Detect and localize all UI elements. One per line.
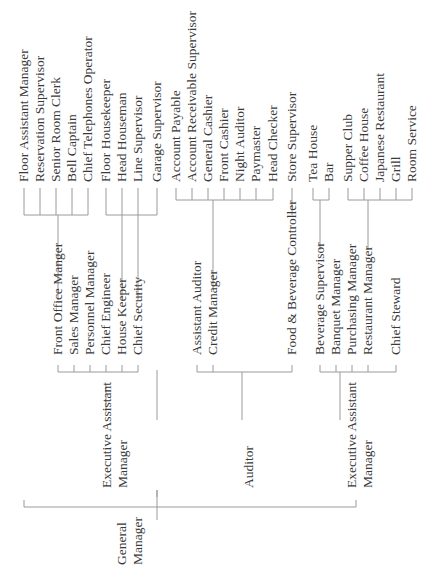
l3-head-checker: Head Checker [266,105,280,182]
l2-chief-steward: Chief Steward [389,277,403,355]
exec-asst-manager-left-line1: Executive Assistant [100,382,114,488]
l3-account-payable: Account Payable [169,90,183,182]
exec-asst-manager-right-line1: Executive Assistant [345,382,359,488]
l2-front-office-manger: Front Office Manger [51,243,65,355]
l2-restaurant-manager: Restaurant Manager [361,246,375,355]
l3-chief-telephones-operator: Chief Telephones Operator [81,36,95,182]
l3-floor-assistant-manager: Floor Assistant Manager [17,49,31,182]
l3-account-receivable-supervisor: Account Receivable Supervisor [185,11,199,182]
exec-asst-manager-right-line2: Manager [361,440,375,488]
org-chart: General Manager Executive Assistant Mana… [0,0,434,569]
l3-floor-housekeeper: Floor Housekeeper [99,79,113,182]
l3-bell-captain: Bell Captain [65,114,79,182]
l2-house-keeper: House Keeper [115,278,129,355]
l3-store-supervisor: Store Supervisor [285,92,299,182]
l3-paymaster: Paymaster [249,126,263,182]
l2-assistant-auditor: Assistant Auditor [190,261,204,355]
l3-garage-supervisor: Garage Supervisor [150,81,164,182]
root-general-manager-line1: General [115,522,129,565]
l3-general-cashier: General Cashier [201,95,215,182]
l2-credit-manager: Credit Manager [206,270,220,355]
l3-coffee-house: Coffee House [357,108,371,182]
l3-room-service: Room Service [405,105,419,182]
exec-asst-manager-left-line2: Manager [116,440,130,488]
l3-head-houseman: Head Houseman [115,92,129,182]
l2-personnel-manager: Personnel Manager [83,250,97,355]
l3-line-supervisor: Line Supervisor [131,95,145,182]
l3-reservation-supervisor: Reservation Supervisor [33,56,47,182]
l2-purchasing-manager: Purchasing Manager [345,244,359,355]
root-general-manager-line2: Manager [131,517,145,565]
l2-sales-manager: Sales Manager [67,275,81,355]
l3-night-auditor: Night Auditor [233,107,247,182]
l2-chief-engineer: Chief Engineer [99,273,113,355]
l2-chief-security: Chief Security [131,277,145,355]
l3-supper-club: Supper Club [341,114,355,182]
l2-banquet-manager: Banquet Manager [329,259,343,355]
l3-tea-house: Tea House [306,125,320,182]
l3-front-cashier: Front Cashier [217,108,231,182]
l2-beverage-supervisor: Beverage Supervisor [313,242,327,355]
l3-bar: Bar [322,163,336,183]
l3-grill: Grill [389,157,403,183]
l3-japanese-restaurant: Japanese Restaurant [373,73,387,182]
l2-food-beverage-controller: Food & Beverage Controller [285,200,299,355]
l3-senior-room-clerk: Senior Room Clerk [49,77,63,182]
auditor: Auditor [242,446,256,488]
